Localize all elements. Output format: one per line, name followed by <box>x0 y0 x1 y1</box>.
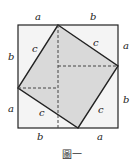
label-top-a: a <box>35 11 41 22</box>
label-bottom-b: b <box>37 131 43 142</box>
label-right-b: b <box>123 94 129 105</box>
label-c-top-right: c <box>93 37 99 48</box>
label-left-a: a <box>8 103 14 114</box>
pythagorean-diagram: a b a b b a b a c c c c 圖一 <box>0 0 135 163</box>
label-right-a: a <box>123 40 129 51</box>
label-c-top-left: c <box>32 43 38 54</box>
label-left-b: b <box>8 51 14 62</box>
label-top-b: b <box>90 11 96 22</box>
label-bottom-a: a <box>97 131 103 142</box>
label-c-bottom-left: c <box>39 107 45 118</box>
figure-caption: 圖一 <box>62 149 82 160</box>
label-c-bottom-right: c <box>98 104 104 115</box>
